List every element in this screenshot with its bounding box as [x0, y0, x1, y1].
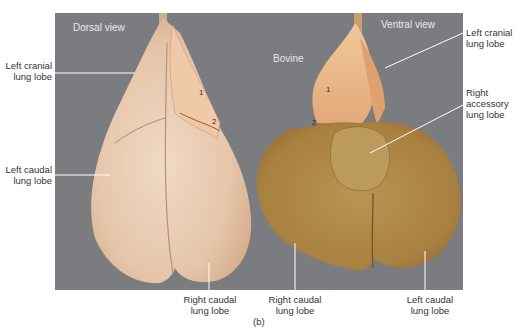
- dorsal-view-label: Dorsal view: [73, 22, 125, 33]
- callout-ventral-left-cranial: Left cranial lung lobe: [466, 27, 512, 49]
- callout-line: accessory: [466, 98, 509, 109]
- callout-line: lung lobe: [265, 305, 325, 316]
- callout-line: lung lobe: [0, 175, 52, 186]
- callout-dorsal-left-caudal: Left caudal lung lobe: [0, 164, 52, 186]
- callout-line: Right caudal: [180, 294, 240, 305]
- callout-line: Right: [466, 87, 509, 98]
- dorsal-lung: [91, 13, 251, 283]
- callout-dorsal-left-cranial: Left cranial lung lobe: [0, 60, 52, 82]
- callout-line: Right caudal: [265, 294, 325, 305]
- figure-photo: Dorsal view Ventral view Bovine 1 2 1 2: [55, 13, 463, 290]
- dorsal-marker-1: 1: [199, 88, 203, 97]
- dorsal-marker-2: 2: [212, 117, 216, 126]
- callout-line: Left caudal: [400, 294, 460, 305]
- callout-line: lung lobe: [180, 305, 240, 316]
- callout-line: Left cranial: [0, 60, 52, 71]
- callout-line: lung lobe: [466, 109, 509, 120]
- callout-line: lung lobe: [0, 71, 52, 82]
- callout-line: Left caudal: [0, 164, 52, 175]
- callout-dorsal-right-caudal: Right caudal lung lobe: [180, 294, 240, 316]
- lung-illustration: [55, 13, 463, 290]
- ventral-marker-2: 2: [312, 118, 316, 127]
- ventral-lung: [257, 13, 461, 271]
- ventral-marker-1: 1: [326, 85, 330, 94]
- figure-caption: (b): [253, 316, 265, 327]
- callout-ventral-left-caudal: Left caudal lung lobe: [400, 294, 460, 316]
- callout-ventral-right-accessory: Right accessory lung lobe: [466, 87, 509, 120]
- callout-line: lung lobe: [466, 38, 512, 49]
- ventral-view-label: Ventral view: [381, 19, 435, 30]
- callout-line: lung lobe: [400, 305, 460, 316]
- species-label: Bovine: [273, 53, 304, 64]
- callout-line: Left cranial: [466, 27, 512, 38]
- callout-ventral-right-caudal: Right caudal lung lobe: [265, 294, 325, 316]
